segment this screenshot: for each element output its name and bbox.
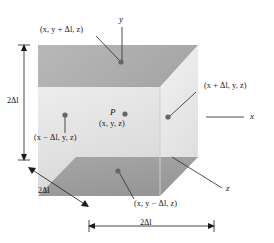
dim-height-label: 2Δl [7,96,19,105]
right-point-label: (x + Δl, y, z) [204,82,247,91]
dim-depth-label: 2Δl [38,186,50,195]
x-axis-label: x [250,111,254,121]
bottom-point-label: (x, y − Δl, z) [134,200,177,209]
dim-depth-arrow-start [28,167,36,174]
y-axis-label: y [119,14,123,24]
dot-bottom-point [115,168,120,173]
dim-width-label: 2Δl [140,218,152,227]
center-point-coords: (x, y, z) [99,120,125,129]
left-point-label: (x − Δl, y, z) [34,134,77,143]
dot-left-point [62,112,67,117]
top-point-label: (x, y + Δl, z) [40,26,83,35]
dot-center-point [122,111,127,116]
dim-depth-arrow-end [81,200,89,207]
dot-right-point [165,114,170,119]
center-point-name: P [110,108,116,117]
dot-top-point [118,59,123,64]
z-axis-label: z [226,183,230,193]
